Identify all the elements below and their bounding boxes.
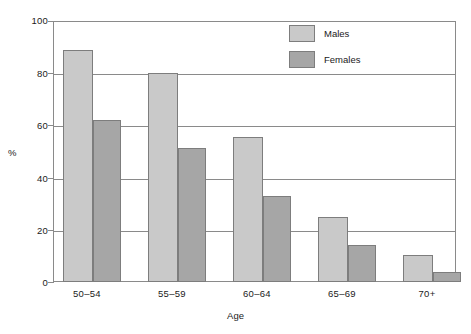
y-tick-label-100: 100 — [22, 15, 48, 26]
x-tick-label-70plus: 70+ — [402, 288, 452, 299]
y-tick-label-0: 0 — [22, 277, 48, 288]
bar-males-60-64 — [233, 137, 263, 282]
bar-females-50-54 — [93, 120, 121, 282]
x-axis-title: Age — [0, 310, 471, 321]
bar-females-60-64 — [263, 196, 291, 282]
legend-label-males: Males — [324, 28, 349, 39]
legend-item-females: Females — [289, 48, 409, 70]
x-tick-label-65-69: 65–69 — [317, 288, 367, 299]
legend-label-females: Females — [324, 54, 360, 65]
y-tick-mark-0 — [48, 282, 54, 283]
bar-females-70plus — [433, 272, 461, 282]
x-tick-label-55-59: 55–59 — [147, 288, 197, 299]
legend-swatch-males-icon — [289, 25, 315, 42]
bar-females-55-59 — [178, 148, 206, 282]
bar-females-65-69 — [348, 245, 376, 282]
bar-males-70plus — [403, 255, 433, 282]
x-tick-label-60-64: 60–64 — [232, 288, 282, 299]
y-axis-title: % — [8, 147, 16, 158]
chart-legend: Males Females — [289, 22, 409, 74]
y-tick-label-80: 80 — [22, 68, 48, 79]
bar-males-50-54 — [63, 50, 93, 282]
y-tick-label-20: 20 — [22, 225, 48, 236]
legend-swatch-females-icon — [289, 51, 315, 68]
legend-item-males: Males — [289, 22, 409, 44]
bar-males-55-59 — [148, 73, 178, 282]
x-tick-label-50-54: 50–54 — [62, 288, 112, 299]
cropped-caption — [14, 324, 304, 332]
y-tick-label-40: 40 — [22, 173, 48, 184]
bar-chart: % 100 80 60 40 20 0 50–54 55–59 60–64 — [0, 0, 471, 334]
bar-males-65-69 — [318, 217, 348, 282]
y-tick-label-60: 60 — [22, 120, 48, 131]
